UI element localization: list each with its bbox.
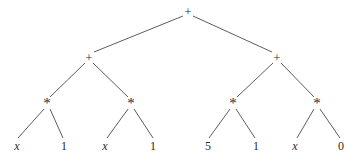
tree-node-leaf2[interactable]: 1 — [61, 140, 67, 152]
tree-edge-r1-r2a — [237, 63, 273, 97]
tree-edge-r2b-leaf8 — [320, 109, 340, 138]
tree-node-l1[interactable]: + — [85, 51, 92, 64]
tree-node-root[interactable]: + — [184, 5, 191, 18]
tree-node-leaf8[interactable]: 0 — [338, 140, 344, 152]
tree-edge-l2b-leaf4 — [134, 109, 153, 138]
tree-node-leaf1[interactable]: x — [14, 140, 19, 152]
tree-edge-r2a-leaf6 — [236, 109, 255, 138]
tree-edge-l2a-leaf2 — [50, 109, 63, 138]
tree-node-leaf7[interactable]: x — [292, 140, 297, 152]
tree-edge-r2b-leaf7 — [297, 109, 314, 138]
tree-edge-layer — [0, 0, 353, 161]
tree-edge-root-l1 — [94, 16, 183, 52]
tree-edge-l1-l2a — [50, 63, 85, 97]
tree-node-l2b[interactable]: * — [127, 96, 135, 111]
tree-edge-l2a-leaf1 — [18, 109, 44, 138]
tree-node-leaf5[interactable]: 5 — [205, 140, 211, 152]
expression-tree-figure: +++****x1x151x0 — [0, 0, 353, 161]
tree-edge-l2b-leaf3 — [107, 109, 128, 138]
tree-node-leaf4[interactable]: 1 — [150, 140, 156, 152]
tree-node-leaf6[interactable]: 1 — [253, 140, 259, 152]
tree-edge-r2a-leaf5 — [209, 109, 230, 138]
tree-node-leaf3[interactable]: x — [102, 140, 107, 152]
tree-edge-r1-r2b — [281, 63, 314, 97]
tree-edge-l1-l2b — [93, 63, 128, 97]
tree-node-r1[interactable]: + — [273, 51, 280, 64]
tree-node-l2a[interactable]: * — [43, 96, 51, 111]
tree-edge-root-r1 — [193, 16, 272, 52]
tree-node-r2b[interactable]: * — [313, 96, 321, 111]
tree-node-r2a[interactable]: * — [229, 96, 237, 111]
